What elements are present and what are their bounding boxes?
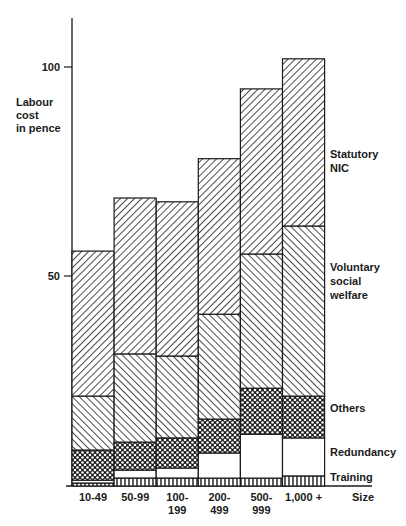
x-category-label: 10-49 (79, 491, 107, 503)
y-tick-label-50: 50 (48, 270, 60, 282)
y-axis-label-line-2: cost (16, 109, 39, 121)
bar-segment-others (198, 419, 240, 453)
x-category-label: 999 (252, 504, 270, 516)
bar-segment-redundancy (156, 468, 198, 478)
bar-segment-redundancy (198, 453, 240, 478)
bar-segment-voluntary-social-welfare (72, 396, 114, 450)
bar-segment-others (72, 450, 114, 480)
bar-segment-voluntary-social-welfare (198, 314, 240, 419)
bar-segment-training (156, 478, 198, 486)
stacked-bar-chart: 100 50 Labour cost in pence 10-4950-9910… (0, 0, 406, 526)
x-category-labels: 10-4950-99100-199200-499500-9991,000 + (79, 491, 322, 516)
bar-segment-statutory-nic (198, 159, 240, 315)
bar-segment-voluntary-social-welfare (114, 354, 156, 442)
x-category-label: 1,000 + (285, 491, 322, 503)
bar-segment-training (283, 476, 325, 486)
bars-group (72, 59, 325, 486)
bar-segment-redundancy (240, 434, 282, 478)
bar-segment-statutory-nic (283, 59, 325, 226)
bar-segment-statutory-nic (156, 202, 198, 356)
legend-voluntary-line-3: welfare (329, 289, 368, 301)
y-axis-label-line-3: in pence (16, 122, 61, 134)
bar-segment-others (114, 442, 156, 470)
x-category-label: 500- (250, 491, 272, 503)
x-category-label: 200- (208, 491, 230, 503)
legend-redundancy: Redundancy (330, 446, 397, 458)
bar-segment-others (156, 438, 198, 468)
y-axis-label-line-1: Labour (16, 96, 54, 108)
bar-segment-statutory-nic (240, 89, 282, 254)
legend-statutory-nic-line-2: NIC (330, 162, 349, 174)
bar-segment-statutory-nic (114, 198, 156, 354)
y-tick-label-100: 100 (42, 61, 60, 73)
bar-segment-others (240, 388, 282, 434)
x-category-label: 50-99 (121, 491, 149, 503)
bar-segment-training (114, 478, 156, 486)
x-category-label: 100- (166, 491, 188, 503)
bar-segment-training (198, 478, 240, 486)
bar-segment-redundancy (114, 470, 156, 478)
x-axis-label-size: Size (352, 491, 374, 503)
bar-segment-statutory-nic (72, 251, 114, 396)
x-category-label: 499 (210, 504, 228, 516)
legend-others: Others (330, 402, 365, 414)
bar-segment-others (283, 396, 325, 438)
legend-statutory-nic-line-1: Statutory (330, 148, 379, 160)
legend-voluntary-line-2: social (330, 275, 361, 287)
legend-training: Training (330, 471, 373, 483)
bar-segment-redundancy (283, 438, 325, 476)
bar-segment-voluntary-social-welfare (240, 254, 282, 388)
bar-segment-voluntary-social-welfare (283, 226, 325, 396)
bar-segment-voluntary-social-welfare (156, 356, 198, 438)
legend-voluntary-line-1: Voluntary (330, 261, 381, 273)
bar-segment-training (240, 478, 282, 486)
x-category-label: 199 (168, 504, 186, 516)
